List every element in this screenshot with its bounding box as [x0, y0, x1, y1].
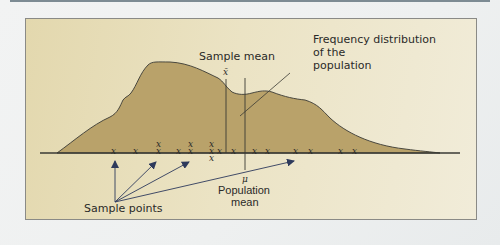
sample-point-marker: x	[308, 146, 313, 156]
sample-point-marker: x	[265, 146, 270, 156]
sample-point-marker: x	[133, 146, 138, 156]
sample-mean-symbol: x̄	[223, 67, 228, 77]
frequency-distribution-label-line1: Frequency distribution	[313, 34, 436, 45]
sample-point-marker: x	[293, 146, 298, 156]
sample-point-marker: x	[209, 153, 214, 163]
population-mean-symbol: μ	[242, 174, 248, 184]
population-mean-label-line2: mean	[231, 197, 259, 208]
sample-point-marker: x	[338, 146, 343, 156]
sample-point-marker: x	[156, 139, 161, 149]
frequency-distribution-label-line3: population	[313, 60, 372, 71]
frequency-distribution-label-line2: of the	[313, 47, 345, 58]
sample-point-marker: x	[217, 146, 222, 156]
sample-points-label: Sample points	[84, 203, 163, 214]
sample-point-marker: x	[231, 146, 236, 156]
population-distribution-curve	[57, 62, 440, 153]
sample-point-marker: x	[209, 139, 214, 149]
sample-point-marker: x	[352, 146, 357, 156]
sample-point-marker: x	[252, 146, 257, 156]
sample-mean-label: Sample mean	[199, 51, 275, 62]
sample-point-marker: x	[188, 139, 193, 149]
sample-point-marker: x	[111, 146, 116, 156]
population-mean-label-line1: Population	[218, 185, 270, 196]
sample-point-marker: x	[176, 146, 181, 156]
